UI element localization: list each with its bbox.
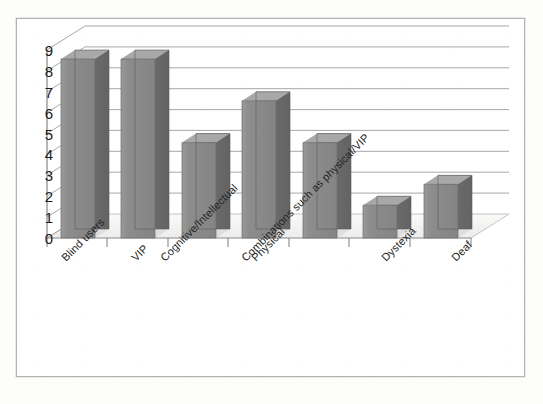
bar-combinations [303,134,351,238]
y-tick-5: 5 [31,127,53,142]
chart-frame: 0 1 2 3 4 5 6 7 8 9 Blind users VIP Cogn… [16,18,525,377]
y-tick-0: 0 [31,231,53,246]
bar-deaf [424,175,472,238]
x-axis-ticks [47,238,471,247]
scanned-page: 0 1 2 3 4 5 6 7 8 9 Blind users VIP Cogn… [0,0,543,404]
chart-svg [17,19,526,378]
bar-dystexia [363,196,411,238]
y-axis: 0 1 2 3 4 5 6 7 8 9 [23,19,53,378]
bar-vip [121,50,169,238]
y-tick-6: 6 [31,106,53,121]
y-tick-7: 7 [31,85,53,100]
y-tick-2: 2 [31,189,53,204]
y-tick-1: 1 [31,210,53,225]
bar-blind-users [61,50,109,238]
y-tick-9: 9 [31,43,53,58]
y-tick-8: 8 [31,64,53,79]
y-tick-3: 3 [31,168,53,183]
bar-physical [242,92,290,238]
bar-chart-plot-area [17,19,526,378]
bar-cognitive-intellectual [182,134,230,238]
y-tick-4: 4 [31,147,53,162]
